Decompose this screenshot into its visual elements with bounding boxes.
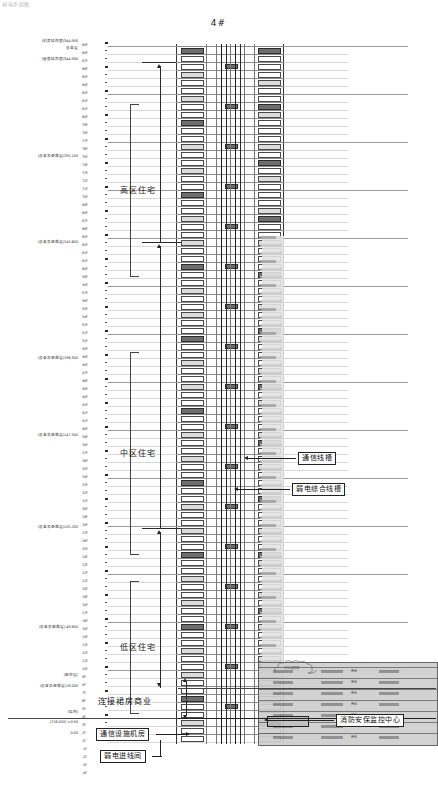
podium-row-label: 商业	[351, 702, 357, 706]
floor-tick	[105, 122, 107, 123]
elevation-note: 设备层	[0, 46, 78, 50]
floor-equipment-box-right	[258, 96, 281, 102]
podium-row	[259, 711, 437, 712]
callout-elv-trough[interactable]: 弱电综合线槽	[292, 483, 345, 496]
floor-label: 61F	[82, 260, 88, 264]
floor-label: 76F	[82, 148, 88, 152]
zone-label-mid: 中区住宅	[120, 447, 156, 458]
floor-equipment-box-right	[258, 224, 281, 230]
shaded-floor-band	[260, 284, 276, 287]
floor-label: 6F	[82, 700, 86, 704]
floor-label: 63F	[82, 92, 88, 96]
floor-equipment-box-left	[181, 472, 204, 478]
floor-label: 14F	[82, 636, 88, 640]
floor-label: 44F	[82, 396, 88, 400]
elevation-note: (216.000) ±0.00	[0, 720, 78, 724]
shaded-floor-band	[260, 484, 282, 487]
shaded-floor-band	[260, 596, 276, 599]
floor-tick	[105, 338, 107, 339]
zone-bracket-cap-top	[130, 352, 139, 353]
leader-elv-entry-v	[160, 740, 161, 756]
floor-tick	[105, 202, 107, 203]
floor-tick	[105, 490, 107, 491]
floor-tick	[105, 98, 107, 99]
podium-cell	[379, 736, 399, 739]
shaded-floor-band	[260, 604, 282, 607]
floor-label: 36F	[82, 460, 88, 464]
floor-tick	[105, 370, 107, 371]
floor-equipment-box-left	[181, 224, 204, 230]
floor-equipment-box-right	[258, 104, 281, 110]
floor-equipment-box-left	[181, 88, 204, 94]
callout-elv-entry[interactable]: 弱电进线间	[100, 750, 146, 763]
floor-equipment-box-left	[181, 168, 204, 174]
floor-label: 47F	[82, 372, 88, 376]
zone-bracket-cap-bottom	[130, 554, 139, 555]
floor-tick	[105, 514, 107, 515]
floor-label: 68F	[82, 44, 88, 48]
callout-comm-room[interactable]: 通信设施机房	[96, 728, 149, 741]
floor-tick	[105, 458, 107, 459]
podium-row-label: 商业	[351, 691, 357, 695]
shaded-floor-band	[260, 468, 282, 471]
podium-cell	[379, 670, 399, 673]
floor-tick	[105, 146, 107, 147]
shaded-floor-band	[260, 540, 282, 543]
leader-comm-trough	[248, 458, 296, 459]
floor-equipment-box-left	[181, 544, 204, 550]
floor-label: 25F	[82, 548, 88, 552]
floor-equipment-box-left	[181, 368, 204, 374]
floor-tick	[105, 626, 107, 627]
floor-label: 42F	[82, 412, 88, 416]
floor-equipment-box-left	[181, 600, 204, 606]
callout-comm-trough[interactable]: 通信线槽	[298, 452, 336, 465]
floor-label: -3F	[82, 764, 87, 768]
floor-equipment-box-left	[181, 392, 204, 398]
floor-equipment-box-left	[181, 120, 204, 126]
floor-equipment-box-left	[181, 496, 204, 502]
floor-label: 2F	[82, 732, 86, 736]
floor-tick	[105, 586, 107, 587]
shaded-floor-band	[260, 636, 282, 639]
floor-label: 31F	[82, 500, 88, 504]
floor-tick	[105, 250, 107, 251]
floor-label: -4F	[82, 772, 87, 776]
shaded-floor-band	[260, 564, 282, 567]
floor-label: 62F	[82, 100, 88, 104]
floor-equipment-box-left	[181, 568, 204, 574]
podium-cell	[379, 692, 399, 695]
floor-label: 7F	[82, 692, 86, 696]
shaded-floor-band	[260, 292, 282, 295]
floor-equipment-box-right	[258, 168, 281, 174]
floor-tick	[105, 106, 107, 107]
floor-label: 43F	[82, 404, 88, 408]
callout-fire-center[interactable]: 消防安保监控中心	[336, 714, 404, 727]
shaded-floor-band	[260, 252, 282, 255]
floor-equipment-box-left	[181, 592, 204, 598]
floor-equipment-box-right	[258, 144, 281, 150]
floor-tick	[105, 194, 107, 195]
floor-label: 52F	[82, 332, 88, 336]
floor-equipment-box-left	[181, 192, 204, 198]
elevation-note: (设备及避难层)196.300	[0, 356, 78, 360]
floor-tick	[105, 314, 107, 315]
floor-equipment-box-left	[181, 576, 204, 582]
floor-label: 37F	[82, 452, 88, 456]
floor-equipment-box-right	[258, 192, 281, 198]
floor-equipment-box-left	[181, 520, 204, 526]
floor-equipment-box-left	[181, 504, 204, 510]
shaded-floor-band	[260, 316, 282, 319]
shaded-floor-band	[260, 644, 276, 647]
floor-tick	[105, 178, 107, 179]
floor-equipment-box-left	[181, 328, 204, 334]
floor-tick	[105, 634, 107, 635]
shaded-floor-band	[260, 620, 276, 623]
floor-label: 22F	[82, 572, 88, 576]
floor-tick	[105, 386, 107, 387]
floor-equipment-box-left	[181, 736, 204, 742]
floor-label: 3F	[82, 724, 86, 728]
floor-label: 27F	[82, 532, 88, 536]
floor-label: -2F	[82, 756, 87, 760]
floor-equipment-box-left	[181, 216, 204, 222]
floor-equipment-box-right	[258, 72, 281, 78]
